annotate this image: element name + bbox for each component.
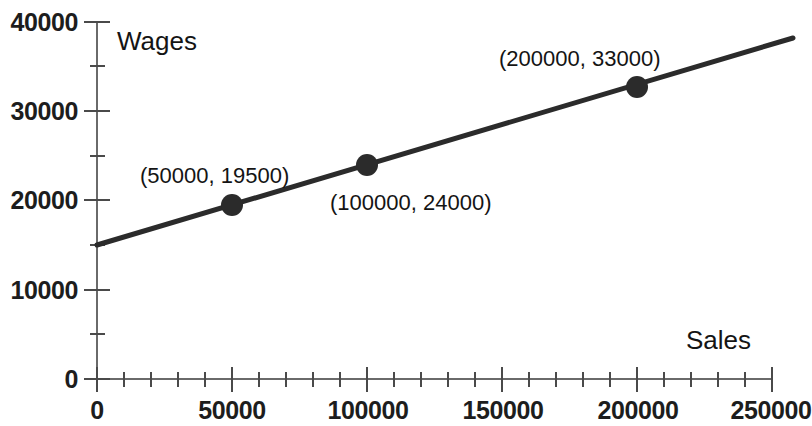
y-axis-tick-label: 40000 xyxy=(0,10,78,35)
x-axis-title: Sales xyxy=(686,327,751,353)
data-point-annotation: (200000, 33000) xyxy=(499,48,660,70)
y-axis-tick-label: 0 xyxy=(0,367,78,392)
y-axis-tick-label: 20000 xyxy=(0,188,78,213)
x-axis-tick-label: 0 xyxy=(47,398,147,423)
x-axis-tick-label: 50000 xyxy=(162,398,302,423)
data-point-marker[interactable] xyxy=(356,154,378,176)
data-point-annotation: (50000, 19500) xyxy=(140,165,289,187)
data-point-marker[interactable] xyxy=(626,76,648,98)
y-axis-tick-label: 10000 xyxy=(0,278,78,303)
y-axis-title: Wages xyxy=(117,28,197,54)
data-point-annotation: (100000, 24000) xyxy=(330,192,491,214)
data-point-marker[interactable] xyxy=(221,194,243,216)
x-axis-tick-label: 250000 xyxy=(692,398,812,423)
y-axis-tick-label: 30000 xyxy=(0,99,78,124)
wages-vs-sales-chart: 40000 30000 20000 10000 0 0 50000 100000… xyxy=(0,0,812,426)
